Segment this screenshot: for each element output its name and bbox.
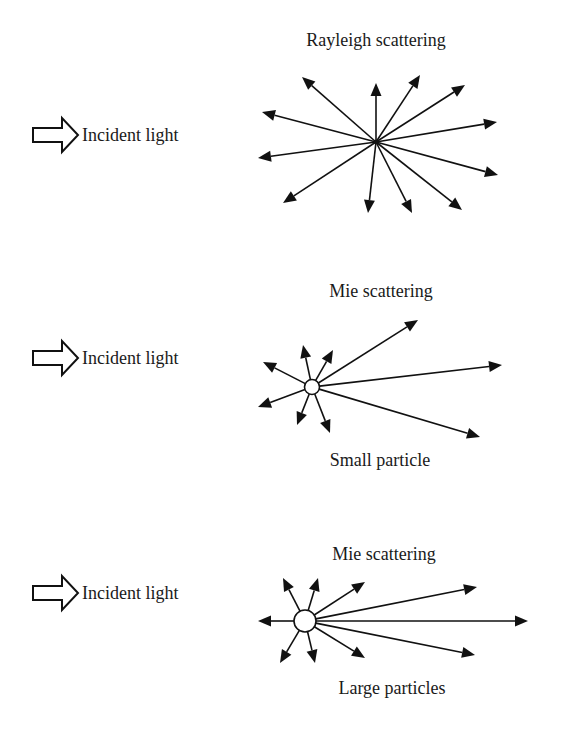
particle-circle [305,380,320,395]
scatter-ray [376,86,413,142]
hollow-right-arrow-icon [33,576,78,610]
panel-mie-large-particles: Incident light Mie scattering Large part… [33,544,528,698]
panel-title: Rayleigh scattering [306,30,445,50]
arrowhead-icon [463,584,477,595]
scatter-ray [270,390,305,403]
arrowhead-icon [322,350,333,364]
incident-light-group: Incident light [33,118,178,152]
arrowhead-icon [488,361,502,372]
scatter-ray [376,92,454,142]
particle-caption: Large particles [338,678,445,698]
arrowhead-icon [307,649,318,663]
scatter-ray [287,630,300,651]
arrowhead-icon [371,83,382,96]
incident-light-group: Incident light [33,341,178,375]
arrowhead-icon [351,646,365,658]
scatter-ray [315,394,326,421]
scattering-rays [258,578,528,663]
arrowhead-icon [461,647,475,658]
arrowhead-icon [258,616,271,627]
arrowhead-icon [283,191,297,203]
scatter-ray [275,368,306,384]
arrowhead-icon [451,85,465,97]
scatter-ray [319,366,489,386]
arrowhead-icon [404,320,418,332]
panel-rayleigh: Incident light Rayleigh scattering [33,30,498,213]
arrowhead-icon [484,166,498,177]
arrowhead-icon [448,198,462,210]
arrowhead-icon [280,649,291,663]
panel-mie-small-particle: Incident light Mie scattering Small part… [33,281,502,470]
scattering-rays [258,75,498,213]
particle-circle [294,610,316,632]
arrowhead-icon [309,578,320,592]
hollow-right-arrow-icon [33,341,78,375]
scatter-ray [314,589,354,615]
arrowhead-icon [351,582,365,594]
scatter-ray [316,590,464,619]
scatter-ray [316,361,327,380]
scatter-ray [308,590,314,610]
scatter-ray [289,590,300,612]
scattering-diagram: Incident light Rayleigh scattering Incid… [0,0,561,735]
scatter-ray [316,623,462,652]
scatter-ray [376,124,484,142]
scatter-ray [308,632,312,651]
arrowhead-icon [408,75,420,89]
arrowhead-icon [258,397,272,407]
scatter-ray [376,142,485,172]
arrowhead-icon [364,199,375,213]
arrowhead-icon [483,119,497,130]
panel-title: Mie scattering [332,544,435,564]
incident-light-group: Incident light [33,576,178,610]
incident-light-label: Incident light [82,583,178,603]
scatter-ray [294,142,376,196]
panel-title: Mie scattering [329,281,432,301]
scatter-ray [271,142,376,156]
arrowhead-icon [262,110,276,121]
scatter-ray [376,142,452,202]
incident-light-label: Incident light [82,348,178,368]
arrowhead-icon [258,151,272,162]
arrowhead-icon [300,345,311,359]
scatter-ray [319,389,467,433]
scatter-ray [306,358,311,380]
scattering-center-dot [374,140,378,144]
scatter-ray [376,142,406,201]
arrowhead-icon [320,419,330,433]
arrowhead-icon [297,411,307,425]
arrowhead-icon [466,428,480,439]
particle-caption: Small particle [330,450,430,470]
arrowhead-icon [515,616,528,627]
scatter-ray [302,394,309,413]
incident-light-label: Incident light [82,125,178,145]
scatter-ray [314,627,354,651]
scattering-rays [258,320,502,439]
hollow-right-arrow-icon [33,118,78,152]
scatter-ray [369,142,376,200]
